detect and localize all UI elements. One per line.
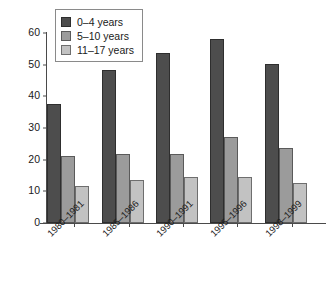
x-axis-tick bbox=[74, 223, 75, 227]
bar bbox=[47, 104, 61, 223]
legend-item: 5–10 years bbox=[61, 29, 134, 42]
y-axis-tick: 0 bbox=[1, 223, 47, 224]
y-tick-label: 20 bbox=[28, 152, 40, 165]
y-tick-label: 50 bbox=[28, 57, 40, 70]
y-axis-tick: 20 bbox=[1, 159, 47, 160]
y-axis-tick: 30 bbox=[1, 128, 47, 129]
y-axis-tick: 40 bbox=[1, 96, 47, 97]
legend-item: 0–4 years bbox=[61, 15, 134, 28]
x-axis-tick bbox=[292, 223, 293, 227]
y-axis-tick: 10 bbox=[1, 191, 47, 192]
y-tick-label: 30 bbox=[28, 121, 40, 134]
bar bbox=[156, 53, 170, 223]
legend-item-label: 5–10 years bbox=[77, 30, 129, 42]
x-axis-tick bbox=[237, 223, 238, 227]
y-tick-mark bbox=[43, 33, 47, 34]
legend-item-label: 0–4 years bbox=[77, 16, 123, 28]
y-tick-mark bbox=[43, 96, 47, 97]
chart-legend: 0–4 years 5–10 years 11–17 years bbox=[55, 9, 143, 62]
bar bbox=[210, 39, 224, 223]
legend-swatch-icon bbox=[61, 45, 71, 55]
y-tick-label: 0 bbox=[34, 216, 40, 229]
x-axis-tick bbox=[183, 223, 184, 227]
bar bbox=[265, 64, 279, 223]
y-axis-tick: 60 bbox=[1, 33, 47, 34]
y-tick-label: 40 bbox=[28, 89, 40, 102]
bar-chart: Rate per 10,000 population 0102030405060… bbox=[0, 0, 336, 281]
legend-swatch-icon bbox=[61, 17, 71, 27]
y-tick-label: 10 bbox=[28, 184, 40, 197]
legend-item-label: 11–17 years bbox=[77, 44, 134, 56]
y-axis-tick: 50 bbox=[1, 64, 47, 65]
legend-item: 11–17 years bbox=[61, 43, 134, 56]
y-tick-label: 60 bbox=[28, 26, 40, 39]
legend-swatch-icon bbox=[61, 31, 71, 41]
y-tick-mark bbox=[43, 64, 47, 65]
x-axis-tick bbox=[129, 223, 130, 227]
bar bbox=[102, 70, 116, 223]
